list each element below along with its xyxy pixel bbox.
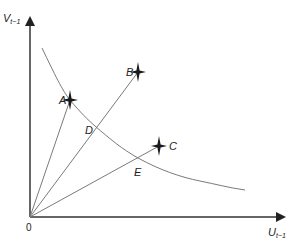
label-a: A bbox=[58, 94, 66, 106]
y-axis-label: Vt−1 bbox=[3, 12, 20, 25]
label-e: E bbox=[134, 166, 142, 178]
label-d: D bbox=[85, 124, 93, 136]
origin-label: 0 bbox=[26, 222, 32, 233]
ray-0-c bbox=[30, 146, 159, 217]
ray-0-a bbox=[30, 100, 70, 217]
diagram-svg: A B C D E Vt−1 Ut−1 0 bbox=[0, 0, 301, 250]
indifference-curve bbox=[42, 48, 245, 190]
label-b: B bbox=[126, 66, 133, 78]
ray-0-b bbox=[30, 72, 138, 217]
x-axis-label: Ut−1 bbox=[268, 226, 286, 239]
diagram-canvas: A B C D E Vt−1 Ut−1 0 bbox=[0, 0, 301, 250]
point-c-marker-icon bbox=[151, 136, 167, 156]
label-c: C bbox=[169, 140, 177, 152]
